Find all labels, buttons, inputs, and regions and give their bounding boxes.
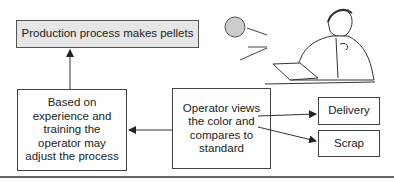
connectors [0,0,394,183]
arrow-operator-to-delivery [258,114,316,116]
operator-figure-icon [265,10,375,84]
color-sample-icon [225,17,245,37]
arrow-operator-to-scrap [258,127,316,141]
